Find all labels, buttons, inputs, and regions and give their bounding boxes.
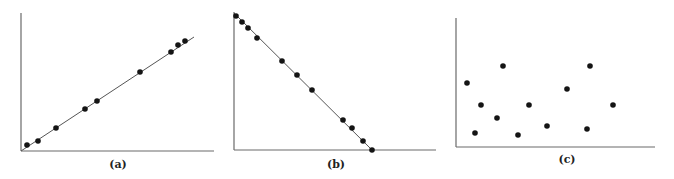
data-point xyxy=(544,123,550,129)
data-point xyxy=(35,138,41,144)
data-point xyxy=(245,25,251,31)
data-point xyxy=(233,13,239,19)
data-point xyxy=(24,142,30,148)
data-point xyxy=(584,126,590,132)
data-point xyxy=(464,80,470,86)
data-point xyxy=(478,102,484,108)
scatter-panel-a xyxy=(21,13,214,151)
data-point xyxy=(239,19,245,25)
panel-c-caption: (c) xyxy=(558,153,575,166)
data-point xyxy=(472,130,478,136)
trend-line xyxy=(21,37,194,151)
data-point xyxy=(610,102,616,108)
scatter-panel-b xyxy=(233,12,436,153)
data-point xyxy=(137,69,143,75)
data-point xyxy=(53,125,59,131)
panel-b-caption: (b) xyxy=(327,158,345,171)
data-point xyxy=(168,49,174,55)
data-point xyxy=(349,125,355,131)
data-point xyxy=(369,147,375,153)
scatter-panel-c xyxy=(456,18,655,147)
data-point xyxy=(360,138,366,144)
data-point xyxy=(175,42,181,48)
data-point xyxy=(294,72,300,78)
data-point xyxy=(526,102,532,108)
data-point xyxy=(309,87,315,93)
data-point xyxy=(254,35,260,41)
correlation-figure: (a) (b) (c) xyxy=(0,0,674,179)
panel-a-caption: (a) xyxy=(109,158,127,171)
data-point xyxy=(564,86,570,92)
data-point xyxy=(515,132,521,138)
data-point xyxy=(340,117,346,123)
data-point xyxy=(587,63,593,69)
data-point xyxy=(182,38,188,44)
data-point xyxy=(94,98,100,104)
data-point xyxy=(500,63,506,69)
data-point xyxy=(494,115,500,121)
data-point xyxy=(279,58,285,64)
data-point xyxy=(82,106,88,112)
